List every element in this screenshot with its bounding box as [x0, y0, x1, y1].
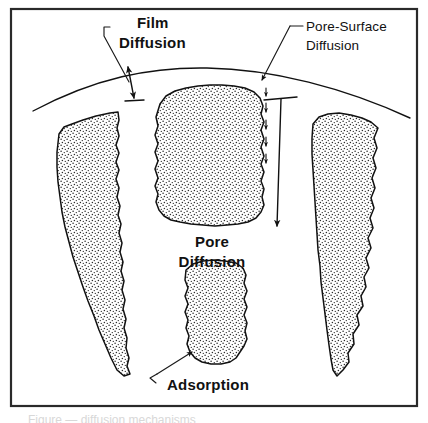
particle-center-upper	[155, 85, 264, 226]
label-film-diffusion-line1: Film	[137, 14, 169, 31]
caption-partial: Figure — diffusion mechanisms	[28, 414, 196, 423]
label-pore-surface-diffusion-line2: Diffusion	[306, 38, 359, 53]
particle-center-lower	[185, 260, 247, 364]
particle-left-wedge	[57, 112, 130, 376]
pore-surface-diffusion-leader	[262, 26, 303, 80]
particle-right-wedge	[312, 113, 378, 376]
label-adsorption: Adsorption	[167, 376, 249, 393]
label-pore-diffusion-line1: Pore	[195, 233, 229, 250]
film-diffusion-gap-arrow	[125, 67, 144, 101]
pore-diffusion-arrow	[264, 97, 297, 226]
label-pore-diffusion-line2: Diffusion	[179, 253, 246, 270]
label-film-diffusion-line2: Diffusion	[119, 34, 186, 51]
label-pore-surface-diffusion-line1: Pore-Surface	[306, 19, 387, 34]
